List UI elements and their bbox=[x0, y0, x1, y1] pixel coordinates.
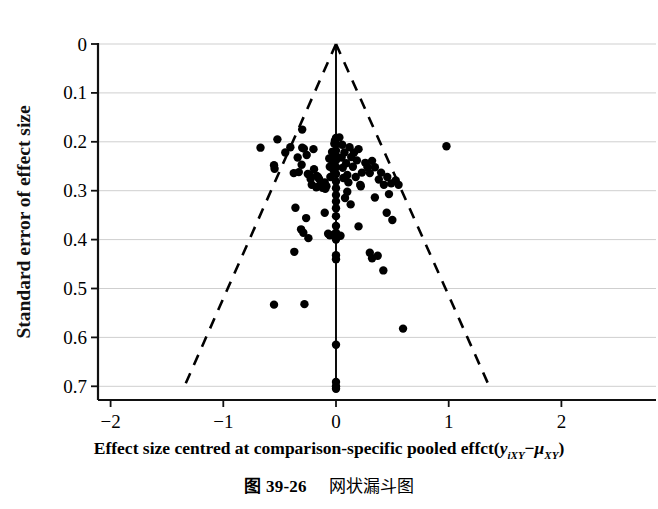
data-point bbox=[300, 300, 308, 308]
data-point bbox=[332, 146, 340, 154]
data-point bbox=[353, 156, 361, 164]
data-point bbox=[399, 324, 407, 332]
data-point bbox=[373, 252, 381, 260]
data-point bbox=[380, 181, 388, 189]
y-tick-label-0: 0 bbox=[78, 34, 88, 55]
data-point bbox=[304, 234, 312, 242]
funnel-plot-figure: 00.10.20.30.40.50.60.7−2−1012Standard er… bbox=[0, 0, 658, 509]
data-point bbox=[332, 212, 340, 220]
x-axis-title-mu-symbol: μ bbox=[535, 438, 545, 458]
data-point bbox=[346, 200, 354, 208]
figure-caption: 图 39-26网状漏斗图 bbox=[0, 472, 658, 497]
data-point bbox=[394, 181, 402, 189]
data-point bbox=[291, 204, 299, 212]
data-point bbox=[332, 170, 340, 178]
data-point bbox=[354, 222, 362, 230]
data-point bbox=[290, 248, 298, 256]
data-point bbox=[336, 231, 344, 239]
data-point bbox=[270, 300, 278, 308]
figure-caption-text: 网状漏斗图 bbox=[329, 477, 414, 496]
data-point bbox=[385, 190, 393, 198]
x-axis-title-minus: − bbox=[525, 438, 535, 458]
x-axis-title-suffix: ) bbox=[558, 438, 564, 458]
data-point bbox=[343, 171, 351, 179]
data-point bbox=[270, 164, 278, 172]
scatter-points-group bbox=[256, 125, 450, 393]
x-tick-label-3: 1 bbox=[444, 411, 454, 432]
data-point bbox=[297, 161, 305, 169]
data-point bbox=[322, 182, 330, 190]
data-point bbox=[286, 143, 294, 151]
data-point bbox=[371, 193, 379, 201]
y-tick-label-4: 0.4 bbox=[63, 229, 87, 250]
data-point bbox=[357, 182, 365, 190]
data-point bbox=[332, 204, 340, 212]
figure-caption-number: 图 39-26 bbox=[244, 477, 306, 496]
x-tick-label-1: −1 bbox=[213, 411, 233, 432]
y-tick-label-5: 0.5 bbox=[63, 278, 87, 299]
y-tick-label-6: 0.6 bbox=[63, 327, 87, 348]
y-tick-label-3: 0.3 bbox=[63, 180, 87, 201]
funnel-limit-left bbox=[184, 44, 336, 386]
data-point bbox=[308, 181, 316, 189]
data-point bbox=[256, 143, 264, 151]
x-axis-title-prefix: Effect size centred at comparison-specif… bbox=[94, 438, 500, 458]
y-tick-label-7: 0.7 bbox=[63, 376, 87, 397]
data-point bbox=[309, 145, 317, 153]
x-axis-title-y-subscript: iXY bbox=[507, 449, 524, 461]
data-point bbox=[302, 214, 310, 222]
data-point bbox=[295, 168, 303, 176]
data-point bbox=[344, 178, 352, 186]
data-point bbox=[332, 385, 340, 393]
data-point bbox=[321, 209, 329, 217]
data-point bbox=[383, 209, 391, 217]
data-point bbox=[332, 341, 340, 349]
data-point bbox=[388, 216, 396, 224]
data-point bbox=[343, 187, 351, 195]
x-tick-label-2: 0 bbox=[331, 411, 341, 432]
data-point bbox=[302, 151, 310, 159]
data-point bbox=[379, 266, 387, 274]
y-tick-label-2: 0.2 bbox=[63, 131, 87, 152]
x-axis-title-mu-subscript: XY bbox=[544, 449, 558, 461]
data-point bbox=[338, 141, 346, 149]
data-point bbox=[298, 125, 306, 133]
funnel-limit-right bbox=[336, 44, 489, 386]
data-point bbox=[293, 153, 301, 161]
data-point bbox=[442, 142, 450, 150]
x-tick-label-0: −2 bbox=[100, 411, 120, 432]
data-point bbox=[354, 145, 362, 153]
y-axis-title: Standard error of effect size bbox=[13, 105, 34, 339]
x-axis-title: Effect size centred at comparison-specif… bbox=[0, 438, 658, 461]
x-tick-label-4: 2 bbox=[557, 411, 567, 432]
data-point bbox=[273, 135, 281, 143]
funnel-plot-svg: 00.10.20.30.40.50.60.7−2−1012Standard er… bbox=[0, 0, 658, 509]
data-point bbox=[332, 255, 340, 263]
y-tick-label-1: 0.1 bbox=[63, 82, 87, 103]
data-point bbox=[335, 133, 343, 141]
